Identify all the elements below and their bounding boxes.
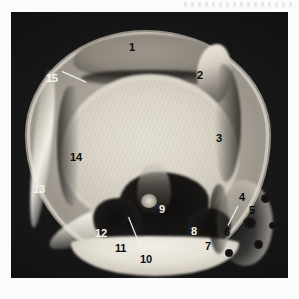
annotation-label-4: 4 bbox=[239, 192, 245, 203]
annotation-layer: 123456789101112131415 bbox=[11, 12, 288, 278]
annotation-label-1: 1 bbox=[129, 42, 135, 53]
annotation-label-12: 12 bbox=[95, 228, 107, 239]
annotation-label-10: 10 bbox=[140, 254, 152, 265]
leader-line-6 bbox=[228, 206, 239, 226]
leader-line-10 bbox=[128, 217, 142, 251]
leader-line-15 bbox=[62, 71, 86, 82]
annotation-label-6: 6 bbox=[224, 227, 230, 238]
annotation-label-5: 5 bbox=[249, 205, 255, 216]
annotation-label-3: 3 bbox=[216, 133, 222, 144]
annotation-label-15: 15 bbox=[46, 73, 58, 84]
annotation-label-14: 14 bbox=[70, 152, 82, 163]
annotation-label-8: 8 bbox=[191, 226, 197, 237]
annotation-label-9: 9 bbox=[159, 204, 165, 215]
annotation-label-13: 13 bbox=[33, 184, 45, 195]
radiograph-frame: 123456789101112131415 bbox=[11, 12, 288, 278]
annotation-label-7: 7 bbox=[205, 241, 211, 252]
annotation-label-2: 2 bbox=[197, 70, 203, 81]
scanner-artifact-text-strip bbox=[184, 2, 296, 7]
annotation-label-11: 11 bbox=[115, 243, 126, 254]
screenshot-root: 123456789101112131415 bbox=[0, 0, 299, 299]
